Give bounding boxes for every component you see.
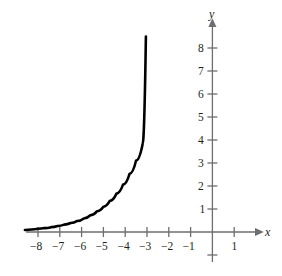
x-axis-label: x — [265, 226, 270, 238]
x-axis-group — [26, 227, 256, 237]
x-tick-label--5: −5 — [96, 241, 108, 253]
y-tick-label-8: 8 — [198, 43, 204, 55]
y-axis-label: y — [209, 8, 214, 20]
y-tick-label-1: 1 — [200, 204, 206, 216]
y-tick-label-5: 5 — [198, 112, 204, 124]
plot-canvas — [0, 0, 282, 276]
y-tick-label-4: 4 — [198, 135, 204, 147]
exponential-curve — [25, 37, 146, 230]
y-tick-label-2: 2 — [198, 181, 204, 193]
y-tick-label-7: 7 — [198, 66, 204, 78]
y-axis-group — [207, 26, 217, 262]
x-tick-label--6: −6 — [74, 241, 86, 253]
y-tick-label-3: 3 — [198, 158, 204, 170]
exponential-function-graph: −8 −7 −6 −5 −4 −3 −2 −1 1 8 7 6 5 4 3 2 … — [0, 0, 282, 276]
y-tick-label-6: 6 — [198, 89, 204, 101]
x-tick-label--2: −2 — [161, 241, 173, 253]
x-tick-label--1: −1 — [183, 241, 195, 253]
x-tick-label--7: −7 — [52, 241, 64, 253]
x-tick-label--8: −8 — [30, 241, 42, 253]
x-tick-label--3: −3 — [139, 241, 151, 253]
x-tick-label-1: 1 — [232, 241, 238, 253]
x-tick-label--4: −4 — [118, 241, 130, 253]
